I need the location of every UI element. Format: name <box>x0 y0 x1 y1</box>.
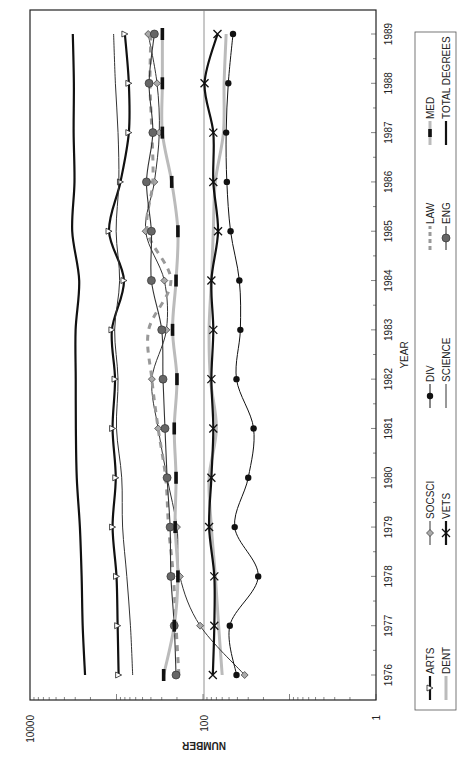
legend-label-total: TOTAL DEGREES <box>441 36 452 119</box>
year-tick-label: 1984 <box>383 269 394 292</box>
year-tick-label: 1989 <box>383 22 394 45</box>
eng-data-point <box>145 79 153 87</box>
year-axis-title: YEAR <box>399 341 410 368</box>
med-data-point <box>172 422 176 434</box>
med-data-point <box>161 127 165 139</box>
div-data-point <box>233 376 239 382</box>
year-tick-label: 1987 <box>383 121 394 144</box>
div-data-point <box>227 228 233 234</box>
div-data-point <box>232 524 238 530</box>
eng-data-point <box>172 671 180 679</box>
med-data-point <box>161 77 165 89</box>
year-tick-label: 1983 <box>383 318 394 341</box>
med-data-point <box>175 373 179 385</box>
eng-data-point <box>161 424 169 432</box>
div-data-point <box>255 573 261 579</box>
med-data-point <box>172 620 176 632</box>
med-data-point <box>173 521 177 533</box>
legend-label-med: MED <box>425 97 436 119</box>
legend-label-law: LAW <box>425 202 436 224</box>
legend-eng-data-point <box>442 234 450 242</box>
eng-data-point <box>147 277 155 285</box>
div-data-point <box>233 672 239 678</box>
eng-data-point <box>163 474 171 482</box>
div-data-point <box>250 425 256 431</box>
legend-label-eng: ENG <box>441 202 452 224</box>
div-data-point <box>225 80 231 86</box>
eng-data-point <box>167 572 175 580</box>
value-tick-label-1: 1 <box>371 715 382 721</box>
chart: 10000 100 1 NUMBER YEAR 1976197719781979… <box>0 0 474 768</box>
med-data-point <box>171 324 175 336</box>
year-tick-label: 1977 <box>383 614 394 637</box>
eng-data-point <box>150 30 158 38</box>
year-tick-label: 1988 <box>383 72 394 95</box>
eng-data-point <box>142 178 150 186</box>
eng-data-point <box>149 129 157 137</box>
eng-data-point <box>166 523 174 531</box>
year-tick-label: 1985 <box>383 220 394 243</box>
year-tick-label: 1979 <box>383 516 394 539</box>
div-data-point <box>236 277 242 283</box>
med-data-point <box>170 176 174 188</box>
year-tick-label: 1978 <box>383 565 394 588</box>
value-tick-label-100: 100 <box>199 715 210 732</box>
med-data-point <box>174 472 178 484</box>
legend-marker-med <box>428 129 432 137</box>
year-tick-label: 1982 <box>383 368 394 391</box>
med-data-point <box>161 28 165 40</box>
med-data-point <box>176 225 180 237</box>
div-data-point <box>237 327 243 333</box>
legend-div-data-point <box>427 393 433 399</box>
year-tick-labels: 1976197719781979198019811982198319841985… <box>383 22 394 686</box>
legend-label-science: SCIENCE <box>441 337 452 382</box>
div-data-point <box>224 179 230 185</box>
div-data-point <box>230 31 236 37</box>
legend-label-dent: DENT <box>441 647 452 674</box>
year-tick-label: 1986 <box>383 170 394 193</box>
div-data-point <box>227 622 233 628</box>
div-data-point <box>223 129 229 135</box>
med-data-point <box>174 275 178 287</box>
year-tick-label: 1976 <box>383 663 394 686</box>
eng-data-point <box>159 375 167 383</box>
med-data-point <box>162 669 166 681</box>
value-tick-label-10000: 10000 <box>25 715 36 743</box>
eng-data-point <box>147 227 155 235</box>
eng-data-point <box>158 326 166 334</box>
legend-label-div: DIV <box>425 365 436 382</box>
div-data-point <box>245 475 251 481</box>
legend-label-arts: ARTS <box>425 647 436 674</box>
value-axis-title: NUMBER <box>181 740 226 751</box>
year-tick-label: 1980 <box>383 466 394 489</box>
legend-label-socsci: SOCSCI <box>425 481 436 519</box>
med-data-point <box>176 570 180 582</box>
legend-label-vets: VETS <box>441 493 452 519</box>
year-tick-label: 1981 <box>383 417 394 440</box>
